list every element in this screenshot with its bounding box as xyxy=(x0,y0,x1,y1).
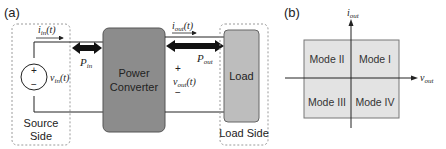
y-axis-arrow-icon xyxy=(349,19,354,26)
output-power-double-arrow-icon xyxy=(166,40,224,52)
input-current-label: iin(t) xyxy=(38,24,56,37)
source-bottom-wire xyxy=(34,96,103,112)
quadrant-mode-1: Mode I xyxy=(359,53,391,65)
quadrant-mode-4: Mode IV xyxy=(355,96,394,108)
source-side-label-line1: Source xyxy=(24,117,59,129)
source-voltage-label: vin(t) xyxy=(50,72,70,85)
output-plus: + xyxy=(175,63,181,74)
input-power-double-arrow-icon xyxy=(72,42,102,54)
x-axis-label: vout xyxy=(420,72,434,85)
x-axis-arrow-icon xyxy=(411,76,418,81)
load-side-label: Load Side xyxy=(219,127,269,139)
panel-a-label: (a) xyxy=(4,5,20,20)
quadrant-mode-3: Mode III xyxy=(308,96,346,108)
quadrant-mode-2: Mode II xyxy=(309,53,344,65)
output-current-label: iout(t) xyxy=(172,20,194,33)
source-minus: − xyxy=(31,79,37,90)
source-plus: + xyxy=(31,65,37,76)
output-power-label: Pout xyxy=(196,52,214,66)
converter-label-line2: Converter xyxy=(110,81,159,93)
source-side-label-line2: Side xyxy=(30,130,52,142)
output-minus: − xyxy=(175,87,181,98)
load-label: Load xyxy=(229,70,253,82)
power-converter-block xyxy=(103,28,165,132)
y-axis-label: iout xyxy=(347,7,360,20)
diagram-canvas: (a) + − vin(t) iin(t) Pin Power Converte… xyxy=(0,0,446,149)
panel-b-label: (b) xyxy=(284,5,300,20)
input-power-label: Pin xyxy=(79,56,93,70)
converter-label-line1: Power xyxy=(118,67,150,79)
